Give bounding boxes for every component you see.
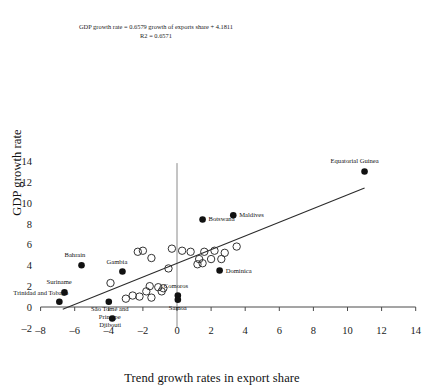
- y-tick-label: –2: [8, 322, 32, 333]
- data-point-open: [194, 261, 201, 268]
- y-tick-label: 0: [8, 302, 32, 313]
- axes-group: [41, 163, 416, 328]
- data-point-label: Maldives: [239, 211, 264, 219]
- x-tick-label: 4: [243, 325, 248, 336]
- data-point-open: [136, 293, 143, 300]
- y-tick-label: 8: [8, 218, 32, 229]
- data-point-open: [134, 248, 141, 255]
- data-point-label: Samoa: [169, 304, 187, 312]
- data-point-label: Comoros: [164, 282, 188, 290]
- y-tick-label: 4: [8, 260, 32, 271]
- data-point-open: [187, 248, 194, 255]
- filled-circle-markers: [56, 168, 368, 322]
- x-axis-title: Trend growth rates in export share: [0, 371, 424, 386]
- x-tick-label: 10: [342, 325, 353, 336]
- data-point-filled: [216, 267, 223, 274]
- data-point-filled: [175, 296, 182, 303]
- regression-equation-line: GDP growth rate = 0.6579 growth of expor…: [36, 22, 276, 31]
- data-point-label: Trinidad and Tobago: [13, 289, 68, 297]
- y-tick-label: 12: [8, 176, 32, 187]
- data-point-open: [148, 254, 155, 261]
- data-point-open: [139, 247, 146, 254]
- y-tick-label: 14: [8, 156, 32, 167]
- data-point-open: [146, 282, 153, 289]
- r-squared-line: R2 = 0.6571: [36, 31, 276, 40]
- data-point-open: [178, 247, 185, 254]
- data-point-open: [218, 255, 225, 262]
- regression-equation-annotation: GDP growth rate = 0.6579 growth of expor…: [36, 22, 276, 41]
- data-point-open: [143, 288, 150, 295]
- data-point-filled: [119, 268, 126, 275]
- x-tick-label: 12: [376, 325, 387, 336]
- data-point-label: Suriname: [46, 278, 71, 286]
- data-point-open: [207, 255, 214, 262]
- data-point-label: Dominica: [226, 267, 252, 275]
- data-point-open: [129, 292, 136, 299]
- x-tick-label: 8: [311, 325, 316, 336]
- data-point-label: Gambia: [106, 258, 127, 266]
- data-point-label: São Tomé and Principe: [88, 305, 132, 321]
- trendline: [63, 188, 365, 309]
- x-tick-label: –6: [69, 325, 80, 336]
- data-point-filled: [78, 262, 85, 269]
- x-tick-label: –8: [35, 325, 46, 336]
- data-point-open: [168, 245, 175, 252]
- x-tick-label: 2: [208, 325, 213, 336]
- data-point-open: [122, 295, 129, 302]
- data-point-open: [107, 279, 114, 286]
- data-point-open: [148, 294, 155, 301]
- x-tick-label: 6: [277, 325, 282, 336]
- y-tick-label: 10: [8, 197, 32, 208]
- data-point-open: [233, 243, 240, 250]
- data-point-label: Djibouti: [99, 321, 121, 329]
- x-tick-label: 0: [174, 325, 179, 336]
- scatter-chart: GDP growth rate = 0.6579 growth of expor…: [0, 0, 424, 389]
- y-tick-label: 6: [8, 239, 32, 250]
- data-point-filled: [199, 216, 206, 223]
- data-point-label: Botswana: [209, 215, 235, 223]
- data-point-label: Bahrain: [65, 251, 86, 259]
- x-tick-label: –2: [138, 325, 149, 336]
- data-point-label: Equatorial Guinea: [331, 157, 379, 165]
- data-point-filled: [361, 168, 368, 175]
- x-tick-label: 14: [410, 325, 421, 336]
- data-point-filled: [56, 298, 63, 305]
